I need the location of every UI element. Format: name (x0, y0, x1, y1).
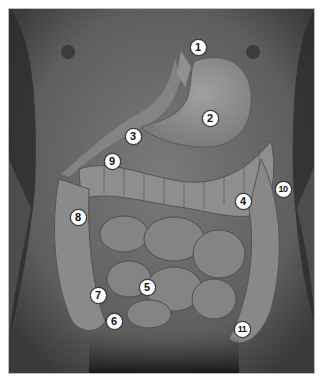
label-marker-8: 8 (70, 209, 87, 226)
label-marker-5: 5 (139, 279, 156, 296)
label-marker-2: 2 (202, 110, 219, 127)
label-marker-9: 9 (104, 153, 121, 170)
label-marker-6: 6 (106, 313, 123, 330)
abdomen-drawing (9, 9, 315, 374)
label-marker-1: 1 (190, 39, 207, 56)
label-marker-10: 10 (275, 181, 292, 198)
label-marker-7: 7 (90, 287, 107, 304)
label-marker-4: 4 (235, 193, 252, 210)
anatomy-illustration: 1 2 3 4 5 6 7 8 9 10 11 (8, 8, 315, 374)
nipple-left (61, 45, 75, 59)
label-marker-11: 11 (234, 321, 251, 338)
nipple-right (246, 45, 260, 59)
label-marker-3: 3 (125, 128, 142, 145)
pubic-region (89, 328, 239, 374)
